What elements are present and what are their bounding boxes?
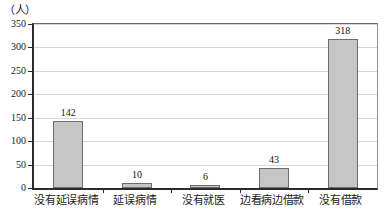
bar xyxy=(328,39,358,188)
bar xyxy=(122,183,152,188)
x-axis-tick-mark xyxy=(308,188,309,193)
y-axis-tick-label: 100 xyxy=(11,136,26,146)
y-axis-tick-label: 250 xyxy=(11,66,26,76)
bar-value-label: 318 xyxy=(335,26,350,36)
bar-chart: （人） 050100150200250300350 14210643318 没有… xyxy=(0,0,385,219)
y-axis-tick-mark xyxy=(28,94,33,95)
bar xyxy=(259,168,289,188)
bar xyxy=(53,121,83,188)
bar-group: 6 xyxy=(171,24,240,188)
x-axis-category-label: 没有延误病情 xyxy=(34,194,98,207)
bar-value-label: 10 xyxy=(132,170,142,180)
y-axis-tick-label: 350 xyxy=(11,19,26,29)
x-axis-labels: 没有延误病情延误病情没有就医边看病边借款没有借款 xyxy=(32,194,378,216)
x-axis-tick-mark xyxy=(171,188,172,193)
y-axis-tick-mark xyxy=(28,188,33,189)
y-axis-tick-mark xyxy=(28,118,33,119)
y-axis-tick-label: 300 xyxy=(11,42,26,52)
x-axis-tick-mark xyxy=(103,188,104,193)
bar-group: 142 xyxy=(34,24,103,188)
bar-group: 43 xyxy=(240,24,309,188)
y-axis-tick-label: 200 xyxy=(11,89,26,99)
x-axis-category-label: 边看病边借款 xyxy=(240,194,304,207)
y-axis-tick-mark xyxy=(28,165,33,166)
bar-value-label: 142 xyxy=(61,108,76,118)
plot-area: 050100150200250300350 14210643318 xyxy=(32,23,378,190)
x-axis-category-label: 没有借款 xyxy=(319,194,362,207)
y-axis-tick-mark xyxy=(28,47,33,48)
y-axis-unit-label: （人） xyxy=(4,1,36,17)
y-axis-tick-mark xyxy=(28,71,33,72)
bar-value-label: 43 xyxy=(269,155,279,165)
x-axis-category-label: 没有就医 xyxy=(182,194,225,207)
bar-group: 318 xyxy=(308,24,377,188)
bars-layer: 14210643318 xyxy=(34,24,377,188)
bar xyxy=(190,185,220,188)
y-axis-tick-label: 0 xyxy=(21,183,26,193)
y-axis-tick-label: 50 xyxy=(16,160,26,170)
bar-value-label: 6 xyxy=(203,172,208,182)
y-axis-tick-mark xyxy=(28,141,33,142)
y-axis-tick-mark xyxy=(28,24,33,25)
x-axis-category-label: 延误病情 xyxy=(113,194,156,207)
bar-group: 10 xyxy=(103,24,172,188)
x-axis-tick-mark xyxy=(240,188,241,193)
y-axis-tick-label: 150 xyxy=(11,113,26,123)
